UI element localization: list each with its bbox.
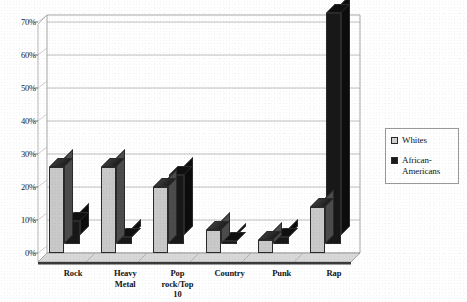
y-tick-0: 0% <box>2 248 36 258</box>
y-tick-10: 10% <box>2 215 36 225</box>
bar-face <box>258 240 273 253</box>
y-tick-70: 70% <box>2 17 36 27</box>
bar-chart: 70% 60% 50% 40% 30% 20% 10% 0% RockHeavy… <box>0 0 467 302</box>
y-tick-30: 30% <box>2 149 36 159</box>
legend-item-whites: Whites <box>391 135 453 146</box>
legend-label-whites: Whites <box>402 135 427 146</box>
bar-whites <box>310 207 325 253</box>
bar-whites <box>101 167 116 253</box>
y-tick-60: 60% <box>2 50 36 60</box>
y-tick-40: 40% <box>2 116 36 126</box>
bar-face <box>310 207 325 253</box>
x-label-5: Rap <box>302 268 366 279</box>
bar-side-face <box>341 0 350 235</box>
legend-swatch-whites-icon <box>391 137 398 144</box>
y-tick-50: 50% <box>2 83 36 93</box>
legend-label-african-americans: African- Americans <box>402 155 440 177</box>
y-tick-20: 20% <box>2 182 36 192</box>
bar-whites <box>258 240 273 253</box>
bar-face <box>49 167 64 253</box>
y-axis-ticks: 70% 60% 50% 40% 30% 20% 10% 0% <box>0 0 36 302</box>
bar-whites <box>206 230 221 253</box>
bar-whites <box>49 167 64 253</box>
x-axis-labels: RockHeavyMetalPoprock/Top10CountryPunkRa… <box>0 260 467 302</box>
legend-swatch-african-americans-icon <box>391 157 398 164</box>
bar-face <box>206 230 221 253</box>
bar-face <box>153 187 168 253</box>
chart-legend: Whites African- Americans <box>385 128 459 184</box>
legend-item-african-americans: African- Americans <box>391 155 453 177</box>
bar-whites <box>153 187 168 253</box>
bar-face <box>101 167 116 253</box>
